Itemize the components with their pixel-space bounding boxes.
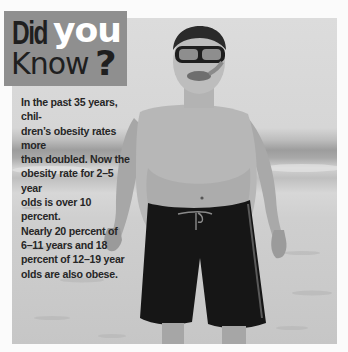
- navel: [200, 196, 203, 199]
- body-line: than doubled. Now the: [21, 152, 131, 166]
- right-hand: [271, 230, 286, 258]
- callout-body-text: In the past 35 years, chil- dren’s obesi…: [21, 95, 131, 281]
- right-leg: [222, 326, 246, 344]
- body-line: In the past 35 years, chil-: [21, 95, 131, 124]
- body-line: Nearly 20 percent of: [21, 224, 131, 238]
- body-line: olds are also obese.: [21, 267, 131, 281]
- snorkel-mask: [175, 46, 225, 63]
- left-leg: [162, 323, 184, 344]
- body-line: 6–11 years and 18: [21, 238, 131, 252]
- heading-word-know: Know: [11, 47, 89, 81]
- heading-word-did: Did: [12, 15, 47, 49]
- body-line: olds is over 10 percent.: [21, 195, 131, 224]
- body-line: dren’s obesity rates more: [21, 124, 131, 153]
- question-mark-icon: ?: [95, 45, 117, 81]
- body-line: percent of 12–19 year: [21, 252, 131, 266]
- snorkel-mouthpiece: [187, 71, 211, 81]
- did-you-know-heading: Did you Know ?: [4, 11, 127, 86]
- body-line: obesity rate for 2–5 year: [21, 166, 131, 195]
